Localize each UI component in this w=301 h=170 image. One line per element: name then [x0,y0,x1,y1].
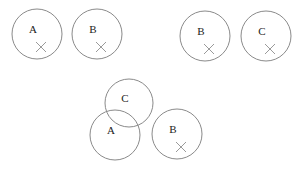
diagram-canvas: ABBCCAB [0,0,301,170]
circle-label: B [169,123,176,135]
circle-label: A [107,124,115,136]
panel-top-left: AB [12,9,122,59]
panel-bottom: CAB [90,79,202,160]
circle-outline [90,110,140,160]
circle-b: B [72,9,122,59]
panel-top-right: BC [180,11,291,61]
cross-icon [176,142,186,152]
circle-a: A [90,110,140,160]
circle-label: C [121,92,128,104]
circle-a: A [12,9,62,59]
circle-c: C [241,11,291,61]
circle-label: B [89,23,96,35]
circle-outline [105,79,153,127]
cross-icon [204,44,214,54]
circle-label: B [197,25,204,37]
circle-b: B [152,109,202,159]
circle-b: B [180,11,230,61]
circles-diagram: ABBCCAB [0,0,301,170]
circle-c: C [105,79,153,127]
cross-icon [96,42,106,52]
cross-icon [36,42,46,52]
circle-label: A [29,23,37,35]
cross-icon [265,44,275,54]
circle-label: C [258,25,265,37]
